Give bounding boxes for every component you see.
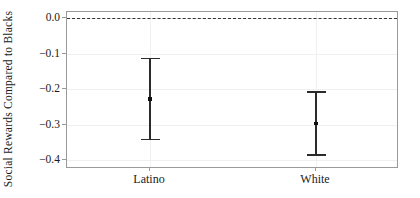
y-tick-mark bbox=[62, 53, 66, 54]
x-tick-mark bbox=[315, 168, 316, 171]
y-axis-tick-labels: 0.0−0.1−0.2−0.3−0.4 bbox=[18, 0, 60, 198]
y-tick-label: 0.0 bbox=[18, 11, 60, 23]
horizontal-gridline bbox=[67, 125, 397, 126]
y-tick-label: −0.3 bbox=[18, 118, 60, 130]
y-tick-mark bbox=[62, 88, 66, 89]
errorbar-upper-cap bbox=[307, 91, 326, 92]
y-tick-mark bbox=[62, 159, 66, 160]
horizontal-gridline bbox=[67, 89, 397, 90]
x-tick-label-latino: Latino bbox=[133, 172, 164, 187]
y-axis-title: Social Rewards Compared to Blacks bbox=[0, 0, 16, 198]
data-point-marker bbox=[148, 97, 151, 100]
x-tick-label-white: White bbox=[300, 172, 329, 187]
y-tick-mark bbox=[62, 124, 66, 125]
x-tick-mark bbox=[149, 168, 150, 171]
horizontal-gridline bbox=[67, 54, 397, 55]
errorbar-lower-cap bbox=[141, 139, 160, 140]
y-tick-label: −0.4 bbox=[18, 153, 60, 165]
plot-area bbox=[66, 11, 398, 168]
zero-dashed-line bbox=[67, 18, 397, 19]
y-tick-mark bbox=[62, 17, 66, 18]
y-tick-label: −0.2 bbox=[18, 82, 60, 94]
errorbar-chart-figure: Social Rewards Compared to Blacks 0.0−0.… bbox=[0, 0, 420, 198]
horizontal-gridline bbox=[67, 160, 397, 161]
y-tick-label: −0.1 bbox=[18, 47, 60, 59]
errorbar-upper-cap bbox=[141, 58, 160, 59]
data-point-marker bbox=[314, 122, 317, 125]
errorbar-lower-cap bbox=[307, 154, 326, 155]
